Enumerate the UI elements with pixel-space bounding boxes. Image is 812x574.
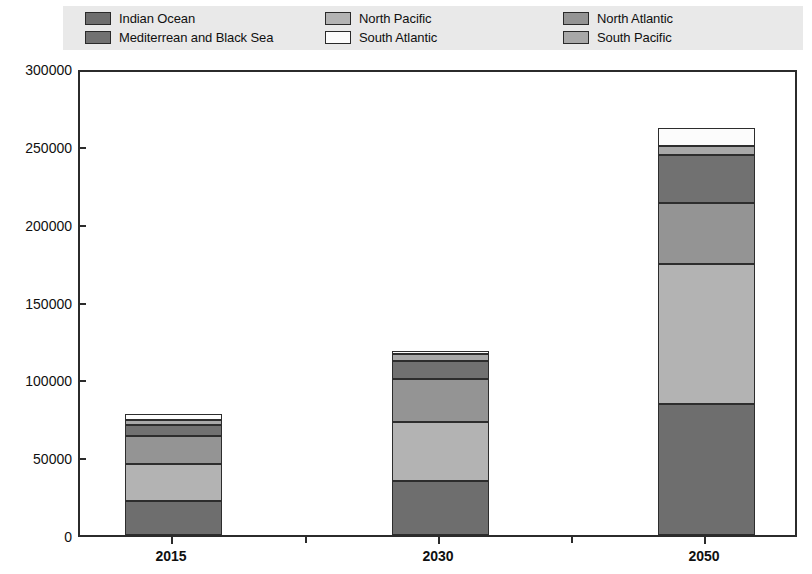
bar-segment[interactable] (658, 203, 755, 264)
legend-label-south-pacific: South Pacific (597, 31, 672, 44)
y-axis-tick-label: 200000 (0, 219, 72, 233)
bar-segment[interactable] (658, 128, 755, 146)
bar-2050[interactable] (658, 68, 755, 535)
legend-swatch-north-atlantic (563, 12, 589, 25)
legend-column-3: North Atlantic South Pacific (563, 9, 673, 47)
y-axis-tick-label: 300000 (0, 63, 72, 77)
bar-segment[interactable] (392, 354, 489, 360)
bar-2030[interactable] (392, 68, 489, 535)
legend-label-north-atlantic: North Atlantic (597, 12, 673, 25)
chart-plot-inner (80, 72, 795, 535)
legend-item-north-pacific: North Pacific (325, 9, 437, 28)
y-axis-tick-mark (78, 147, 86, 149)
bar-segment[interactable] (392, 481, 489, 535)
legend-label-north-pacific: North Pacific (359, 12, 431, 25)
y-axis-tick-mark (78, 458, 86, 460)
legend-swatch-south-pacific (563, 31, 589, 44)
legend-label-indian-ocean: Indian Ocean (119, 12, 195, 25)
x-axis-tick-mark (438, 537, 440, 544)
x-axis-tick-label-2030: 2030 (422, 549, 453, 563)
bar-segment[interactable] (658, 146, 755, 155)
y-axis-tick-label: 50000 (0, 452, 72, 466)
bar-segment[interactable] (125, 501, 222, 535)
legend-label-south-atlantic: South Atlantic (359, 31, 437, 44)
y-axis-tick-mark (78, 303, 86, 305)
x-axis-minor-tick-mark (305, 537, 307, 543)
legend-column-2: North Pacific South Atlantic (325, 9, 437, 47)
bar-segment[interactable] (658, 264, 755, 404)
legend-item-indian-ocean: Indian Ocean (85, 9, 273, 28)
legend-item-south-pacific: South Pacific (563, 28, 673, 47)
bar-segment[interactable] (125, 425, 222, 436)
bar-segment[interactable] (125, 436, 222, 464)
x-axis-tick-label-2050: 2050 (688, 549, 719, 563)
y-axis-tick-label: 0 (0, 530, 72, 544)
bar-segment[interactable] (392, 422, 489, 480)
bar-segment[interactable] (392, 379, 489, 423)
x-axis-tick-mark (171, 537, 173, 544)
chart-plot-area (78, 70, 797, 537)
x-axis-tick-label-2015: 2015 (155, 549, 186, 563)
y-axis-tick-label: 100000 (0, 374, 72, 388)
bar-segment[interactable] (392, 361, 489, 379)
legend-item-south-atlantic: South Atlantic (325, 28, 437, 47)
legend-swatch-mediterranean-black-sea (85, 31, 111, 44)
x-axis-minor-tick-mark (571, 537, 573, 543)
bar-segment[interactable] (125, 414, 222, 420)
bar-segment[interactable] (392, 351, 489, 354)
legend-swatch-indian-ocean (85, 12, 111, 25)
legend-item-mediterranean-black-sea: Mediterrean and Black Sea (85, 28, 273, 47)
y-axis-tick-mark (78, 225, 86, 227)
legend-column-1: Indian Ocean Mediterrean and Black Sea (85, 9, 273, 47)
bar-2015[interactable] (125, 68, 222, 535)
y-axis-tick-mark (78, 380, 86, 382)
y-axis-tick-label: 150000 (0, 297, 72, 311)
legend-label-mediterranean-black-sea: Mediterrean and Black Sea (119, 31, 273, 44)
bar-segment[interactable] (125, 464, 222, 501)
legend-swatch-north-pacific (325, 12, 351, 25)
bar-segment[interactable] (125, 420, 222, 425)
bar-segment[interactable] (658, 155, 755, 203)
legend-item-north-atlantic: North Atlantic (563, 9, 673, 28)
x-axis-tick-mark (704, 537, 706, 544)
bar-segment[interactable] (658, 404, 755, 535)
chart-legend: Indian Ocean Mediterrean and Black Sea N… (63, 6, 803, 50)
legend-swatch-south-atlantic (325, 31, 351, 44)
y-axis-tick-label: 250000 (0, 141, 72, 155)
